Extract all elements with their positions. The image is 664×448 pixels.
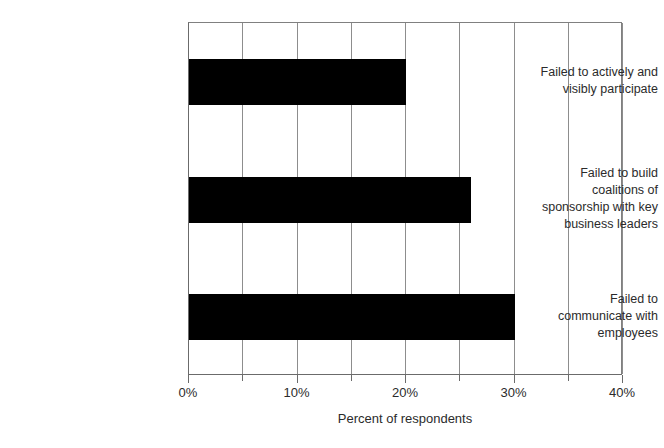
x-tick-label: 20% xyxy=(375,385,435,400)
bar xyxy=(189,59,406,105)
x-tick-label: 30% xyxy=(484,385,544,400)
x-axis-title: Percent of respondents xyxy=(188,411,622,426)
x-tick-30 xyxy=(514,375,515,383)
x-tick-10 xyxy=(297,375,298,383)
category-label-line: Failed to actively and xyxy=(482,64,658,81)
x-tick-20 xyxy=(405,375,406,383)
category-label: Failed to actively andvisibly participat… xyxy=(482,64,664,98)
category-label: Failed to buildcoalitions ofsponsorship … xyxy=(482,165,664,233)
bar-chart: Failed tocommunicate withemployeesFailed… xyxy=(0,0,664,448)
category-label-line: business leaders xyxy=(482,216,658,233)
category-label: Failed tocommunicate withemployees xyxy=(482,291,664,342)
x-tick-35 xyxy=(568,375,569,381)
category-label-line: Failed to build xyxy=(482,165,658,182)
x-tick-0 xyxy=(188,375,189,383)
bar xyxy=(189,177,471,223)
x-tick-40 xyxy=(622,375,623,383)
x-tick-label: 10% xyxy=(267,385,327,400)
x-tick-15 xyxy=(351,375,352,381)
category-label-line: Failed to xyxy=(482,291,658,308)
category-label-line: employees xyxy=(482,325,658,342)
x-tick-label: 0% xyxy=(158,385,218,400)
x-tick-label: 40% xyxy=(592,385,652,400)
category-label-line: communicate with xyxy=(482,308,658,325)
category-label-line: coalitions of xyxy=(482,182,658,199)
bar xyxy=(189,294,515,340)
category-label-line: sponsorship with key xyxy=(482,199,658,216)
x-tick-25 xyxy=(459,375,460,381)
category-label-line: visibly participate xyxy=(482,81,658,98)
x-tick-5 xyxy=(242,375,243,381)
